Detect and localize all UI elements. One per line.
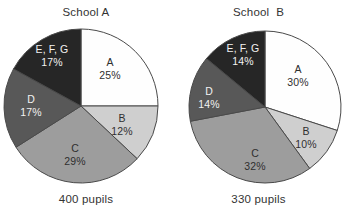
pie-slice-name: B	[118, 112, 125, 124]
pie-chart-figure: School A A25%B12%C29%D17%E, F, G17% 400 …	[0, 0, 345, 213]
pie-slice-percent: 25%	[99, 69, 120, 81]
pie-slice-percent: 12%	[111, 125, 132, 137]
pie-slice-percent: 17%	[41, 56, 62, 68]
pie-slice-percent: 29%	[64, 155, 85, 167]
pie-slice-percent: 30%	[287, 76, 308, 88]
pie-slice-name: A	[106, 56, 113, 68]
pie-school-b: A30%B10%C32%D14%E, F, G14%	[172, 0, 345, 213]
pie-slice-name: D	[27, 93, 35, 105]
pie-slice-name: E, F, G	[36, 43, 69, 55]
pie-slice-name: D	[205, 85, 213, 97]
pie-svg-school-b: A30%B10%C32%D14%E, F, G14%	[172, 0, 345, 213]
pie-slice	[81, 29, 158, 106]
pie-slice-name: C	[71, 142, 79, 154]
pie-slice-name: C	[251, 147, 259, 159]
chart-panel-school-b: School B A30%B10%C32%D14%E, F, G14% 330 …	[172, 0, 345, 213]
pie-slice-percent: 14%	[198, 98, 219, 110]
pie-slice-name: E, F, G	[227, 42, 260, 54]
pie-slice-percent: 17%	[20, 106, 41, 118]
pie-slice-percent: 10%	[295, 138, 316, 150]
pie-slice-name: A	[294, 63, 301, 75]
chart-footer-school-a: 400 pupils	[0, 192, 172, 207]
pie-slice-name: B	[302, 125, 309, 137]
pie-slice-percent: 14%	[232, 55, 253, 67]
pie-svg-school-a: A25%B12%C29%D17%E, F, G17%	[0, 0, 172, 213]
pie-school-a: A25%B12%C29%D17%E, F, G17%	[0, 0, 172, 213]
chart-footer-school-b: 330 pupils	[172, 192, 345, 207]
pie-slice-percent: 32%	[244, 160, 265, 172]
chart-panel-school-a: School A A25%B12%C29%D17%E, F, G17% 400 …	[0, 0, 172, 213]
